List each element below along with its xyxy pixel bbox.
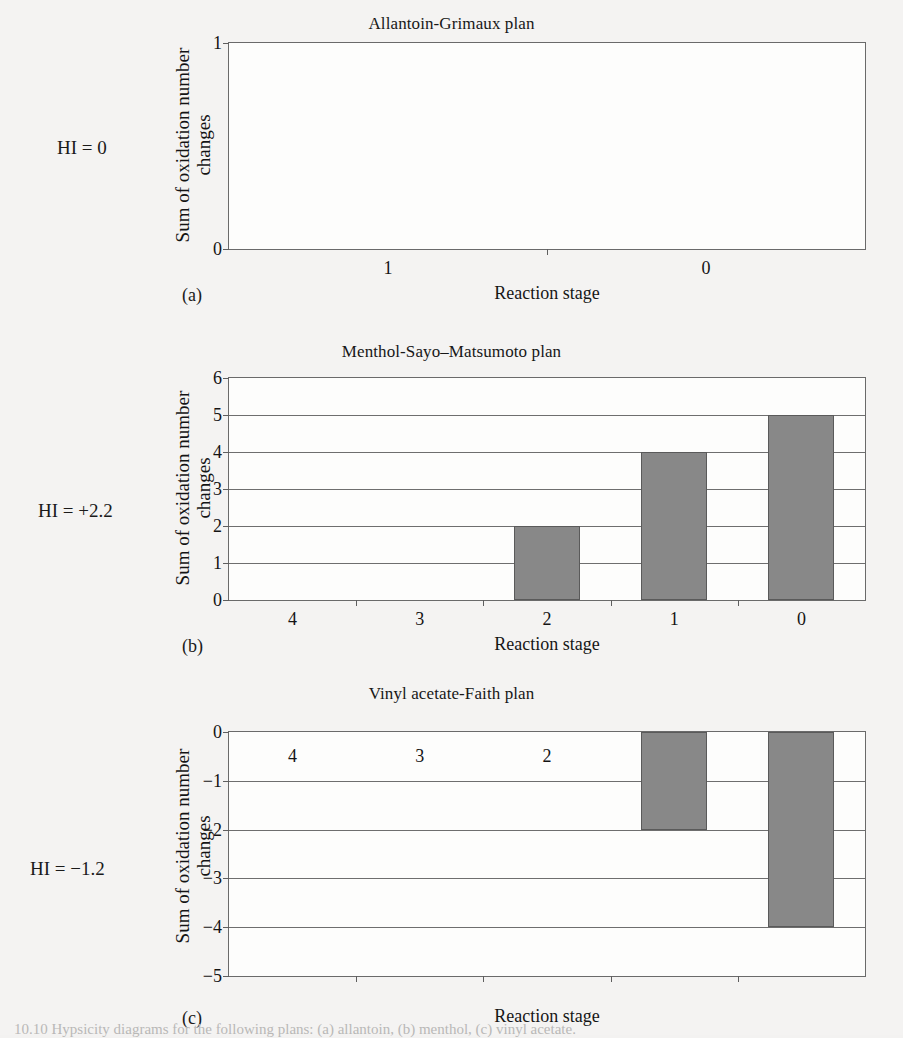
x-tick-mark: [483, 976, 484, 982]
panel-b-y-axis-line1: Sum of oxidation number: [172, 391, 193, 586]
y-tick-label: 6: [213, 369, 222, 387]
panel-a-plot-area: 0110: [228, 42, 866, 250]
x-tick-mark: [738, 600, 739, 606]
y-tick-mark: [223, 452, 229, 453]
y-tick-label: 0: [213, 591, 222, 609]
y-tick-label: 0: [213, 240, 222, 258]
x-tick-label: 4: [288, 609, 297, 630]
panel-b-plot-area: 012345643210: [228, 377, 866, 601]
x-tick-mark: [547, 249, 548, 255]
y-tick-label: 0: [213, 723, 222, 741]
bar: [514, 526, 580, 600]
panel-c-hi-label: HI = −1.2: [30, 858, 105, 880]
bar: [641, 452, 707, 600]
y-tick-mark: [223, 249, 229, 250]
y-tick-mark: [223, 830, 229, 831]
panel-b-title: Menthol-Sayo–Matsumoto plan: [0, 342, 903, 362]
bar: [768, 415, 834, 600]
y-tick-label: −4: [203, 918, 222, 936]
panel-b-y-axis-title: Sum of oxidation number changes: [172, 372, 215, 604]
panel-a-hi-label: HI = 0: [57, 137, 107, 159]
x-tick-label: 1: [384, 258, 393, 279]
panel-c-y-axis-line1: Sum of oxidation number: [172, 749, 193, 944]
x-tick-label: 0: [797, 609, 806, 630]
y-tick-mark: [223, 415, 229, 416]
y-tick-mark: [223, 976, 229, 977]
bar: [641, 732, 707, 830]
panel-b-hi-label: HI = +2.2: [38, 500, 113, 522]
y-tick-label: −3: [203, 869, 222, 887]
panel-a-title: Allantoin-Grimaux plan: [0, 14, 903, 34]
y-tick-label: −1: [203, 772, 222, 790]
x-category-label: 4: [288, 746, 297, 767]
panel-a-sublabel: (a): [182, 285, 202, 306]
x-tick-mark: [356, 600, 357, 606]
gridline: [229, 927, 865, 928]
y-tick-mark: [223, 878, 229, 879]
figure-caption: 10.10 Hypsicity diagrams for the followi…: [14, 1021, 894, 1038]
bar: [768, 732, 834, 927]
panel-c-plot-area: 0−1−2−3−4−543210: [228, 731, 866, 977]
y-tick-mark: [223, 526, 229, 527]
x-tick-label: 2: [543, 609, 552, 630]
x-tick-mark: [483, 600, 484, 606]
y-tick-mark: [223, 600, 229, 601]
panel-a-y-axis-title: Sum of oxidation number changes: [172, 38, 215, 252]
y-tick-mark: [223, 378, 229, 379]
y-tick-label: 5: [213, 406, 222, 424]
panel-a-y-axis-line1: Sum of oxidation number: [172, 48, 193, 243]
y-tick-label: 4: [213, 443, 222, 461]
x-category-label: 3: [415, 746, 424, 767]
y-tick-label: 3: [213, 480, 222, 498]
x-category-label: 2: [543, 746, 552, 767]
panel-b-sublabel: (b): [182, 636, 203, 657]
panel-a-x-axis-title: Reaction stage: [228, 283, 866, 304]
y-tick-mark: [223, 489, 229, 490]
y-tick-label: 2: [213, 517, 222, 535]
y-tick-label: 1: [213, 554, 222, 572]
y-tick-label: −2: [203, 821, 222, 839]
panel-b-y-axis-line2: changes: [193, 457, 214, 518]
panel-a-y-axis-line2: changes: [193, 114, 214, 175]
y-tick-label: −5: [203, 967, 222, 985]
panel-a: Allantoin-Grimaux plan HI = 0 Sum of oxi…: [0, 0, 903, 330]
y-tick-mark: [223, 781, 229, 782]
y-tick-label: 1: [213, 34, 222, 52]
panel-b-x-axis-title: Reaction stage: [228, 634, 866, 655]
x-tick-mark: [738, 976, 739, 982]
x-tick-mark: [611, 976, 612, 982]
x-tick-label: 3: [415, 609, 424, 630]
panel-c: Vinyl acetate-Faith plan HI = −1.2 Sum o…: [0, 676, 903, 1035]
y-tick-mark: [223, 732, 229, 733]
y-tick-mark: [223, 927, 229, 928]
x-tick-mark: [356, 976, 357, 982]
panel-c-title: Vinyl acetate-Faith plan: [0, 684, 903, 704]
y-tick-mark: [223, 43, 229, 44]
x-tick-mark: [611, 600, 612, 606]
x-tick-label: 0: [702, 258, 711, 279]
y-tick-mark: [223, 563, 229, 564]
panel-b: Menthol-Sayo–Matsumoto plan HI = +2.2 Su…: [0, 336, 903, 671]
x-tick-label: 1: [670, 609, 679, 630]
